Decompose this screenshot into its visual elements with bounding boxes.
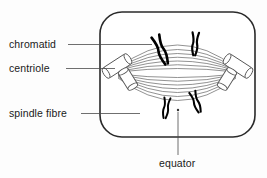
diagram-page: chromatid centriole spindle fibre equato… <box>0 0 267 178</box>
label-equator: equator <box>159 157 196 169</box>
label-spindle-fibre: spindle fibre <box>9 107 67 119</box>
cell-division-diagram: chromatid centriole spindle fibre equato… <box>0 0 267 178</box>
equator-point-marker <box>177 109 179 111</box>
label-centriole: centriole <box>9 62 50 74</box>
label-chromatid: chromatid <box>9 38 56 50</box>
